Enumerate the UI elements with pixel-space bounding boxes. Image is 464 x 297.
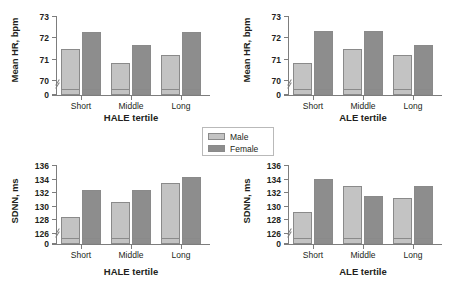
y-axis-tick: [284, 16, 288, 17]
x-axis-title: ALE tertile: [288, 266, 438, 277]
x-axis-category-label: Middle: [350, 250, 375, 260]
y-axis-tick-label: 134: [35, 175, 49, 185]
y-axis-tick: [52, 192, 56, 193]
y-axis-tick-label: 71: [40, 55, 49, 65]
bar-male-long: [161, 55, 180, 90]
plot-area-hr-hale: 070717273ShortMiddleLong: [56, 16, 206, 96]
y-axis-tick-label: 70: [272, 76, 281, 86]
plot-area-sdnn-ale: 0126128130132134136ShortMiddleLong: [288, 165, 438, 245]
y-axis-tick: [284, 179, 288, 180]
y-axis-tick-label: 0: [276, 90, 281, 100]
y-axis-tick: [284, 192, 288, 193]
axis-break-icon: [52, 229, 61, 238]
x-axis-category-label: Middle: [118, 101, 143, 111]
bar-female-short: [82, 190, 101, 239]
bar-female-middle: [364, 196, 383, 239]
y-axis-tick: [52, 219, 56, 220]
y-axis-tick: [52, 59, 56, 60]
plot-area-hr-ale: 070717273ShortMiddleLong: [288, 16, 438, 96]
x-axis-category-label: Long: [172, 250, 191, 260]
x-axis-title: ALE tertile: [288, 112, 438, 123]
y-axis-tick-label: 71: [272, 55, 281, 65]
x-axis-category-label: Short: [303, 250, 323, 260]
y-axis-title: Mean HR, bpm: [240, 4, 254, 96]
y-axis-tick: [284, 94, 288, 95]
y-axis-tick: [52, 94, 56, 95]
y-axis-tick: [52, 206, 56, 207]
x-axis-tick: [413, 245, 414, 249]
y-axis-tick: [284, 219, 288, 220]
y-axis-tick: [284, 243, 288, 244]
x-axis-category-label: Short: [303, 101, 323, 111]
legend-item-female: Female: [208, 143, 273, 154]
x-axis-tick: [131, 96, 132, 100]
x-axis-tick: [313, 245, 314, 249]
bar-male-long: [393, 198, 412, 239]
bar-female-middle: [132, 190, 151, 239]
x-axis-title: HALE tertile: [56, 266, 206, 277]
bar-female-long: [414, 186, 433, 239]
x-axis-tick: [181, 245, 182, 249]
y-axis-tick: [52, 16, 56, 17]
chart-panel-hr-ale: Mean HR, bpm 070717273ShortMiddleLong AL…: [232, 0, 464, 148]
y-axis-title: SDNN, ms: [240, 155, 254, 247]
x-axis-tick: [363, 96, 364, 100]
x-axis-category-label: Middle: [118, 250, 143, 260]
legend-label-male: Male: [230, 132, 248, 142]
legend-label-female: Female: [230, 144, 258, 154]
bar-male-short: [61, 217, 80, 239]
bar-female-short: [314, 31, 333, 90]
y-axis-tick-label: 128: [267, 215, 281, 225]
figure-panel-grid: Mean HR, bpm 070717273ShortMiddleLong HA…: [0, 0, 464, 297]
bar-male-middle: [111, 202, 130, 239]
x-axis-tick: [181, 96, 182, 100]
bar-male-long: [161, 183, 180, 239]
y-axis-title: SDNN, ms: [8, 155, 22, 247]
y-axis-tick-label: 130: [35, 202, 49, 212]
bar-female-middle: [364, 31, 383, 90]
y-axis-tick: [284, 165, 288, 166]
x-axis-category-label: Long: [404, 250, 423, 260]
y-axis-tick-label: 0: [276, 239, 281, 249]
y-axis-tick: [52, 37, 56, 38]
x-axis-title: HALE tertile: [56, 112, 206, 123]
y-axis-tick-label: 73: [40, 12, 49, 22]
x-axis-category-label: Long: [404, 101, 423, 111]
y-axis-tick-label: 72: [40, 33, 49, 43]
bar-female-long: [182, 177, 201, 239]
bar-female-long: [182, 32, 201, 90]
y-axis-tick: [284, 59, 288, 60]
y-axis-tick-label: 73: [272, 12, 281, 22]
x-axis-tick: [363, 245, 364, 249]
x-axis-tick: [81, 96, 82, 100]
bar-male-short: [61, 49, 80, 90]
y-axis-tick-label: 126: [267, 229, 281, 239]
x-axis-category-label: Short: [71, 101, 91, 111]
bar-male-middle: [111, 63, 130, 90]
chart-legend: Male Female: [202, 127, 274, 156]
chart-panel-hr-hale: Mean HR, bpm 070717273ShortMiddleLong HA…: [0, 0, 232, 148]
bar-female-short: [314, 179, 333, 239]
axis-break-icon: [284, 80, 293, 89]
bar-male-middle: [343, 186, 362, 239]
y-axis-tick-label: 134: [267, 175, 281, 185]
bar-male-long: [393, 55, 412, 90]
y-axis-tick-label: 128: [35, 215, 49, 225]
y-axis-tick-label: 72: [272, 33, 281, 43]
legend-swatch-female-icon: [208, 145, 225, 152]
y-axis-tick-label: 132: [267, 188, 281, 198]
y-axis-tick-label: 136: [35, 161, 49, 171]
y-axis-title: Mean HR, bpm: [8, 4, 22, 96]
x-axis-tick: [131, 245, 132, 249]
chart-panel-sdnn-hale: SDNN, ms 0126128130132134136ShortMiddleL…: [0, 149, 232, 297]
bar-female-long: [414, 45, 433, 90]
x-axis-tick: [413, 96, 414, 100]
x-axis-tick: [313, 96, 314, 100]
bar-male-short: [293, 212, 312, 239]
axis-break-icon: [284, 229, 293, 238]
bar-male-middle: [343, 49, 362, 90]
chart-panel-sdnn-ale: SDNN, ms 0126128130132134136ShortMiddleL…: [232, 149, 464, 297]
y-axis-tick-label: 70: [40, 76, 49, 86]
y-axis-tick-label: 0: [44, 90, 49, 100]
axis-break-icon: [52, 80, 61, 89]
